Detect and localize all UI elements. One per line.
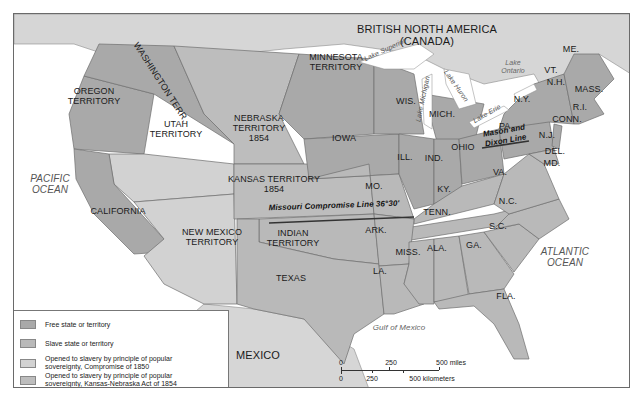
label-nh: N.H. (547, 77, 565, 87)
scale-tick (341, 367, 342, 374)
label-miss: MISS. (395, 247, 420, 257)
legend-swatch-slave (20, 339, 36, 348)
scale-tick (389, 367, 390, 370)
label-nc: N.C. (499, 196, 517, 206)
scale-km-250: 250 (366, 375, 378, 382)
legend-item-popular-1850: Opened to slavery by principle of popula… (20, 355, 172, 371)
label-fla: FLA. (496, 291, 515, 301)
scale-km-500: 500 kilometers (409, 375, 455, 382)
label-ri: R.I. (573, 102, 587, 112)
label-pacific: PACIFIC OCEAN (30, 173, 69, 195)
label-ny: N.Y. (514, 94, 531, 104)
label-indian: INDIAN TERRITORY (267, 228, 320, 248)
scale-bar: 0 250 500 miles 0 250 500 kilometers (339, 359, 479, 388)
label-mexico: MEXICO (236, 349, 280, 361)
scale-tick (372, 370, 373, 373)
label-mass: MASS. (575, 84, 604, 94)
label-atlantic: ATLANTIC OCEAN (541, 246, 589, 268)
legend-swatch-free (20, 320, 36, 329)
label-ga: GA. (466, 240, 482, 250)
scale-km-0: 0 (339, 375, 343, 382)
region-ark (374, 214, 414, 266)
label-lake-ontario: Lake Ontario (501, 59, 525, 75)
label-la: LA. (373, 266, 387, 276)
legend-item-free: Free state or territory (20, 320, 110, 329)
scale-mile-0: 0 (339, 359, 343, 366)
legend-item-popular-1854: Opened to slavery by principle of popula… (20, 372, 177, 388)
legend-label: Slave state or territory (45, 340, 113, 348)
label-new-mexico: NEW MEXICO TERRITORY (182, 227, 242, 247)
scale-tick (403, 370, 404, 373)
label-texas: TEXAS (276, 273, 306, 283)
label-ill: ILL. (397, 152, 412, 162)
scale-tick (439, 367, 440, 370)
label-md: MD. (544, 158, 561, 168)
label-minnesota: MINNESOTA TERRITORY (309, 52, 363, 72)
label-sc: S.C. (489, 221, 507, 231)
legend-label: Opened to slavery by principle of popula… (45, 355, 172, 371)
label-ind: IND. (425, 153, 443, 163)
map-frame: BRITISH NORTH AMERICA (CANADA) OREGON TE… (13, 13, 630, 388)
label-nj: N.J. (539, 130, 555, 140)
label-ark: ARK. (365, 225, 386, 235)
scale-line (341, 370, 439, 371)
label-va: VA. (493, 167, 507, 177)
legend-swatch-popular-1854 (20, 376, 36, 385)
legend-label: Opened to slavery by principle of popula… (45, 372, 177, 388)
label-tenn: TENN. (423, 207, 451, 217)
label-canada: BRITISH NORTH AMERICA (CANADA) (357, 23, 497, 47)
label-mich: MICH. (429, 109, 455, 119)
label-gulf: Gulf of Mexico (373, 324, 426, 332)
legend-item-slave: Slave state or territory (20, 339, 113, 348)
label-wis: WIS. (396, 96, 416, 106)
label-california: CALIFORNIA (90, 206, 145, 216)
label-ala: ALA. (427, 243, 447, 253)
legend-label: Free state or territory (45, 321, 110, 329)
label-ky-state: KY. (437, 184, 451, 194)
label-vt: VT. (544, 65, 557, 75)
label-me: ME. (563, 44, 579, 54)
legend: Free state or territory Slave state or t… (14, 310, 229, 388)
label-kansas: KANSAS TERRITORY 1854 (228, 174, 320, 194)
region-utah (109, 154, 234, 202)
label-iowa: IOWA (332, 133, 356, 143)
label-nebraska: NEBRASKA TERRITORY 1854 (233, 113, 286, 143)
label-del: DEL. (545, 146, 565, 156)
label-ohio: OHIO (451, 142, 474, 152)
label-conn: CONN. (552, 114, 582, 124)
label-oregon: OREGON TERRITORY (68, 86, 121, 106)
label-utah: UTAH TERRITORY (150, 119, 203, 139)
legend-swatch-popular-1850 (20, 359, 36, 368)
label-mo-state: MO. (365, 181, 382, 191)
scale-mile-500: 500 miles (436, 359, 466, 366)
scale-mile-250: 250 (385, 359, 397, 366)
